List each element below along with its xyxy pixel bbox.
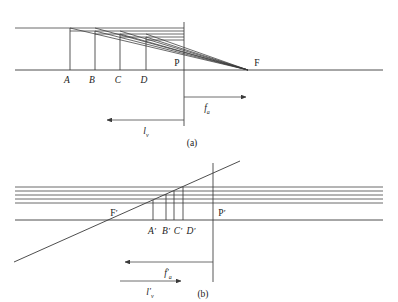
label-F-prime: F′ xyxy=(110,208,117,218)
panel-b: F′ P′ A′ B′ C′ D′ f′a l′v (b) xyxy=(14,161,383,300)
label-fa-prime: f′a xyxy=(164,267,172,280)
caption-b: (b) xyxy=(197,289,208,300)
converging-ray-D-upper xyxy=(146,34,248,70)
label-P: P xyxy=(174,58,179,68)
label-F: F xyxy=(254,58,259,68)
panel-a: A B C D P F fa lv (a) xyxy=(15,22,383,149)
label-D: D xyxy=(140,75,148,85)
label-lv: lv xyxy=(143,126,149,138)
figure-root: A B C D P F fa lv (a) xyxy=(0,0,398,302)
caption-a: (a) xyxy=(187,138,198,149)
label-D-prime: D′ xyxy=(186,226,197,236)
label-A: A xyxy=(63,75,70,85)
optical-diagram-svg: A B C D P F fa lv (a) xyxy=(0,0,398,302)
label-A-prime: A′ xyxy=(147,226,157,236)
label-C-prime: C′ xyxy=(174,226,183,236)
label-fa: fa xyxy=(204,103,210,115)
label-B-prime: B′ xyxy=(162,226,171,236)
label-lv-prime: l′v xyxy=(146,286,154,299)
label-C: C xyxy=(115,75,122,85)
label-B: B xyxy=(89,75,95,85)
slanted-chief-ray xyxy=(14,161,240,262)
label-P-prime: P′ xyxy=(218,208,225,218)
